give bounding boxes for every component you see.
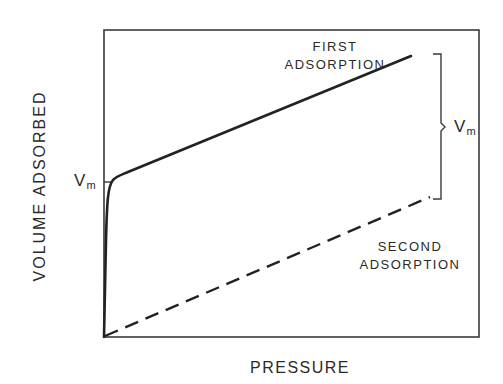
plot-frame [104,30,479,337]
first-adsorption-label: FIRST ADSORPTION [285,38,386,74]
vm-brace [433,54,445,199]
vm-axis-label-main: V [74,171,87,190]
vm-brace-label: Vm [454,117,477,137]
vm-axis-label-sub: m [87,179,97,191]
vm-brace-label-main: V [454,117,467,136]
first-adsorption-label-line2: ADSORPTION [285,56,386,74]
first-adsorption-label-line1: FIRST [285,38,386,56]
vm-brace-label-sub: m [467,125,477,137]
x-axis-label: PRESSURE [250,359,350,377]
chart-canvas [0,0,503,384]
second-adsorption-label-line1: SECOND [360,238,461,256]
y-axis-label: VOLUME ADSORBED [31,91,49,282]
second-adsorption-label-line2: ADSORPTION [360,256,461,274]
vm-axis-label: Vm [74,171,97,191]
first-adsorption-curve [104,56,411,337]
second-adsorption-label: SECOND ADSORPTION [360,238,461,274]
